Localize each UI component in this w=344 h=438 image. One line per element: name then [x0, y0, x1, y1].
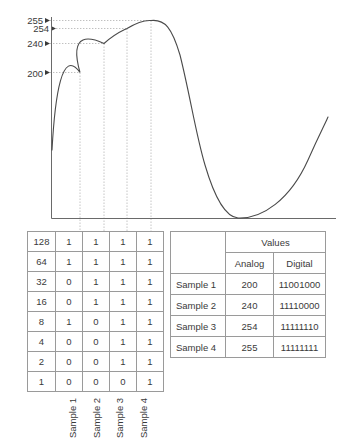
table-row: 1 0 0 0 1 — [28, 372, 164, 392]
analog-waveform-curve — [52, 20, 328, 218]
weight-cell: 4 — [28, 332, 56, 352]
bit-cell: 1 — [137, 352, 164, 372]
sample-column-label-4: Sample 4 — [137, 392, 151, 438]
sample-column-labels: Sample 1 Sample 2 Sample 3 Sample 4 — [55, 392, 165, 438]
bit-cell: 1 — [137, 332, 164, 352]
y-tick-label-254: 254 — [33, 23, 49, 34]
row-label: Sample 3 — [171, 316, 226, 337]
bit-cell: 1 — [83, 232, 110, 252]
digital-value: 11111111 — [274, 337, 326, 358]
table-row: Sample 4 255 11111111 — [171, 337, 326, 358]
digital-value: 11110000 — [274, 295, 326, 316]
analog-value: 200 — [226, 274, 274, 295]
analog-signal-chart: 255 254 240 200 — [0, 0, 344, 232]
table-row: 2 0 0 1 1 — [28, 352, 164, 372]
vertical-sample-lines — [80, 21, 151, 233]
weight-cell: 128 — [28, 232, 56, 252]
bit-cell: 0 — [83, 332, 110, 352]
weight-cell: 1 — [28, 372, 56, 392]
bit-cell: 0 — [56, 332, 83, 352]
values-table: Values Analog Digital Sample 1 200 11001… — [170, 231, 326, 358]
bit-cell: 1 — [56, 252, 83, 272]
digital-value: 11001000 — [274, 274, 326, 295]
bit-cell: 1 — [137, 312, 164, 332]
bit-cell: 1 — [110, 292, 137, 312]
horizontal-guide-lines — [50, 21, 151, 73]
weight-cell: 64 — [28, 252, 56, 272]
sample-column-label-3: Sample 3 — [113, 392, 127, 438]
bit-cell: 1 — [110, 272, 137, 292]
corner-header — [171, 232, 226, 253]
bit-cell: 1 — [110, 232, 137, 252]
bit-cell: 0 — [83, 372, 110, 392]
table-row: 32 0 1 1 1 — [28, 272, 164, 292]
weight-cell: 16 — [28, 292, 56, 312]
table-header-row-group: Values — [171, 232, 326, 253]
weight-cell: 8 — [28, 312, 56, 332]
bit-cell: 1 — [110, 332, 137, 352]
table-row: 64 1 1 1 1 — [28, 252, 164, 272]
y-tick-label-200: 200 — [27, 68, 43, 79]
binary-table-body: 128 1 1 1 1 64 1 1 1 1 32 0 1 1 1 16 0 1… — [28, 232, 164, 392]
bit-cell: 1 — [137, 252, 164, 272]
table-row: 8 1 0 1 1 — [28, 312, 164, 332]
bit-cell: 1 — [110, 252, 137, 272]
bit-cell: 1 — [137, 292, 164, 312]
row-label: Sample 2 — [171, 295, 226, 316]
table-row: 128 1 1 1 1 — [28, 232, 164, 252]
bit-cell: 1 — [56, 312, 83, 332]
table-row: 16 0 1 1 1 — [28, 292, 164, 312]
values-table-body: Sample 1 200 11001000 Sample 2 240 11110… — [171, 274, 326, 358]
values-group-header: Values — [226, 232, 326, 253]
bit-cell: 0 — [56, 272, 83, 292]
bit-cell: 1 — [110, 312, 137, 332]
table-row: 4 0 0 1 1 — [28, 332, 164, 352]
table-row: Sample 2 240 11110000 — [171, 295, 326, 316]
bit-cell: 1 — [56, 232, 83, 252]
bit-cell: 1 — [83, 272, 110, 292]
column-header-digital: Digital — [274, 253, 326, 274]
bit-cell: 1 — [137, 232, 164, 252]
bit-cell: 0 — [56, 352, 83, 372]
bit-cell: 1 — [110, 352, 137, 372]
chart-canvas: 255 254 240 200 — [0, 0, 344, 232]
bit-cell: 1 — [83, 292, 110, 312]
binary-weights-table: 128 1 1 1 1 64 1 1 1 1 32 0 1 1 1 16 0 1… — [27, 231, 164, 392]
weight-cell: 32 — [28, 272, 56, 292]
corner-header-lower — [171, 253, 226, 274]
bit-cell: 1 — [137, 272, 164, 292]
table-row: Sample 1 200 11001000 — [171, 274, 326, 295]
sample-column-label-1: Sample 1 — [66, 392, 80, 438]
analog-value: 255 — [226, 337, 274, 358]
bit-cell: 0 — [83, 312, 110, 332]
table-row: Sample 3 254 11111110 — [171, 316, 326, 337]
row-label: Sample 1 — [171, 274, 226, 295]
bit-cell: 0 — [110, 372, 137, 392]
bit-cell: 0 — [56, 292, 83, 312]
bit-cell: 0 — [83, 352, 110, 372]
digital-value: 11111110 — [274, 316, 326, 337]
bit-cell: 1 — [83, 252, 110, 272]
sample-column-label-2: Sample 2 — [90, 392, 104, 438]
weight-cell: 2 — [28, 352, 56, 372]
y-tick-label-240: 240 — [27, 38, 43, 49]
analog-value: 240 — [226, 295, 274, 316]
row-label: Sample 4 — [171, 337, 226, 358]
bit-cell: 1 — [137, 372, 164, 392]
bit-cell: 0 — [56, 372, 83, 392]
analog-value: 254 — [226, 316, 274, 337]
column-header-analog: Analog — [226, 253, 274, 274]
table-header-row-sub: Analog Digital — [171, 253, 326, 274]
values-table-head: Values Analog Digital — [171, 232, 326, 274]
